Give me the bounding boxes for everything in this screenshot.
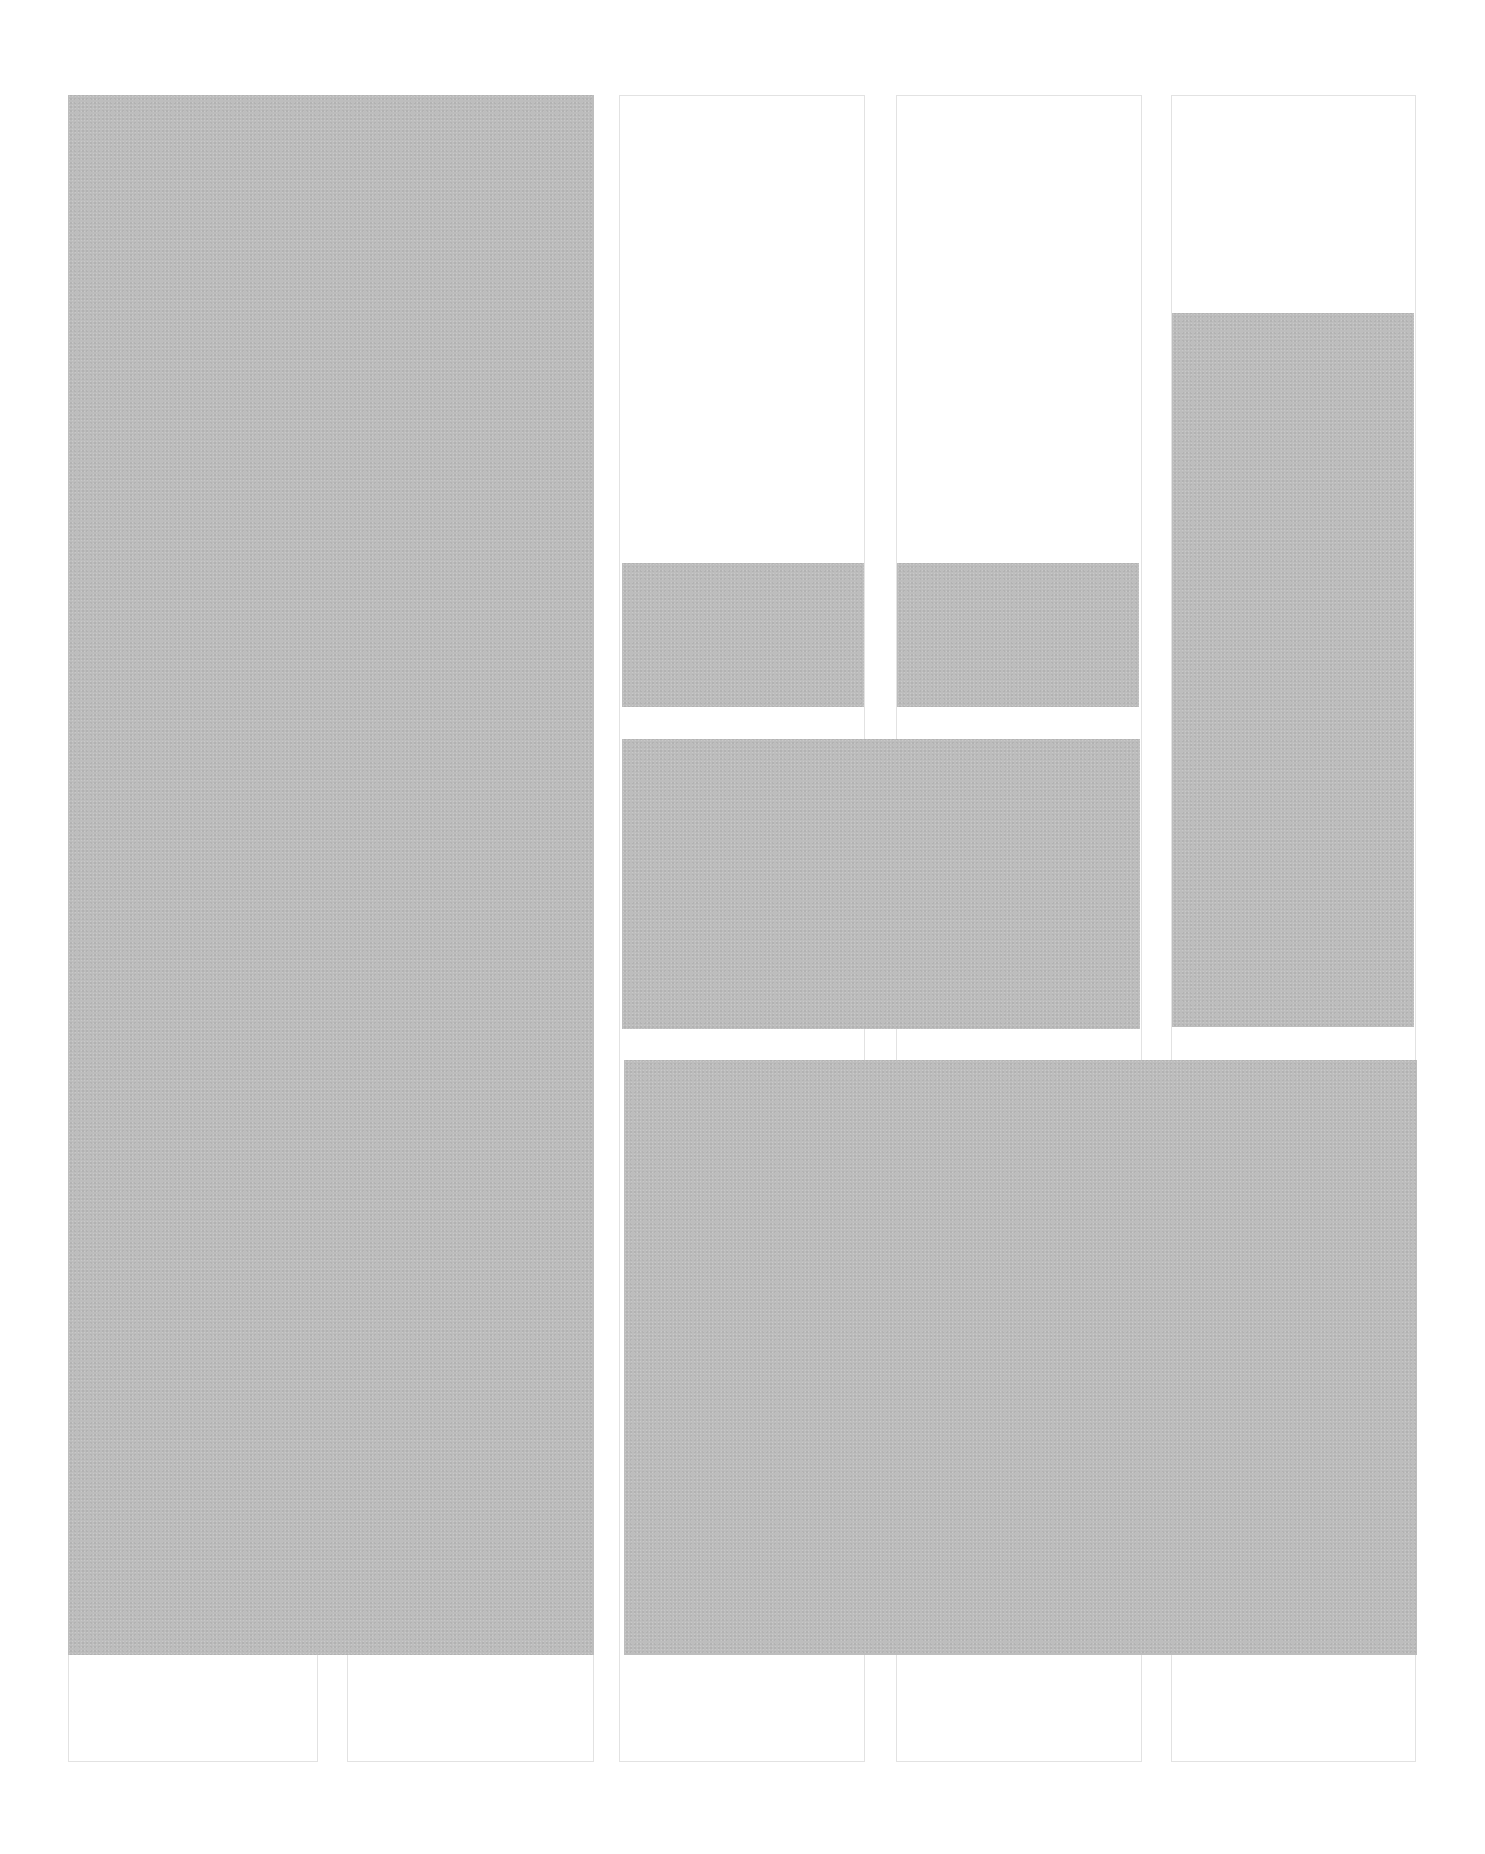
block-small-col3 xyxy=(622,563,864,707)
block-large-bottom-right xyxy=(624,1060,1417,1655)
block-small-col4 xyxy=(897,563,1139,707)
block-tall-col5 xyxy=(1172,313,1414,1027)
block-medium-wide xyxy=(622,739,1140,1029)
block-large-left xyxy=(68,95,594,1655)
